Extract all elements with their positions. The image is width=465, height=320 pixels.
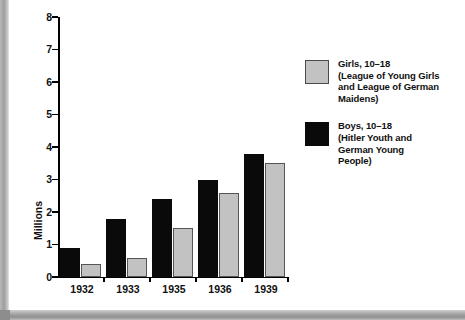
bar-chart: Millions 012345678 19321933193519361939 … (0, 0, 465, 320)
legend-label-line: People) (338, 155, 463, 167)
legend-item-boys: Boys, 10–18(Hitler Youth andGerman Young… (305, 120, 463, 166)
y-tick-mark (52, 179, 58, 181)
y-tick-label: 7 (36, 44, 52, 55)
legend-swatch-black (305, 122, 329, 146)
legend-swatch-gray (305, 60, 329, 84)
x-tick-mark (241, 277, 243, 282)
x-tick-label-1939: 1939 (236, 283, 296, 295)
plot-bars (59, 17, 289, 277)
y-tick-mark (52, 211, 58, 213)
legend-label-line: (League of Young Girls (338, 70, 463, 82)
y-tick-mark (52, 114, 58, 116)
legend-item-girls: Girls, 10–18(League of Young Girlsand Le… (305, 58, 463, 104)
bar-1935-girls (173, 228, 193, 277)
bar-1933-boys (106, 219, 126, 278)
y-tick-label: 0 (36, 272, 52, 283)
y-tick-label: 2 (36, 207, 52, 218)
bar-1939-girls (265, 163, 285, 277)
legend-label-line: Boys, 10–18 (338, 120, 463, 132)
bar-1935-boys (152, 199, 172, 277)
legend-label-line: and League of German (338, 81, 463, 93)
y-tick-mark (52, 146, 58, 148)
y-tick-label: 8 (36, 12, 52, 23)
x-tick-mark (287, 277, 289, 282)
bar-1936-girls (219, 193, 239, 278)
x-tick-mark (149, 277, 151, 282)
bar-1939-boys (244, 154, 264, 278)
y-tick-label: 4 (36, 142, 52, 153)
x-tick-mark (195, 277, 197, 282)
y-tick-mark (52, 276, 58, 278)
legend-label: Boys, 10–18(Hitler Youth andGerman Young… (338, 120, 463, 166)
y-tick-label: 1 (36, 239, 52, 250)
y-tick-label: 5 (36, 109, 52, 120)
x-tick-mark (103, 277, 105, 282)
y-tick-mark (52, 49, 58, 51)
legend-label-line: Girls, 10–18 (338, 58, 463, 70)
bar-1933-girls (127, 258, 147, 278)
y-tick-label: 6 (36, 77, 52, 88)
legend-label: Girls, 10–18(League of Young Girlsand Le… (338, 58, 463, 104)
bar-1932-boys (60, 248, 80, 277)
chart-legend: Girls, 10–18(League of Young Girlsand Le… (305, 58, 463, 183)
y-tick-label: 3 (36, 174, 52, 185)
y-tick-mark (52, 81, 58, 83)
bar-1932-girls (81, 264, 101, 277)
legend-label-line: Maidens) (338, 93, 463, 105)
y-tick-mark (52, 16, 58, 18)
y-tick-mark (52, 244, 58, 246)
legend-label-line: German Young (338, 144, 463, 156)
legend-label-line: (Hitler Youth and (338, 132, 463, 144)
bar-1936-boys (198, 180, 218, 278)
scanned-page: Millions 012345678 19321933193519361939 … (0, 0, 465, 320)
